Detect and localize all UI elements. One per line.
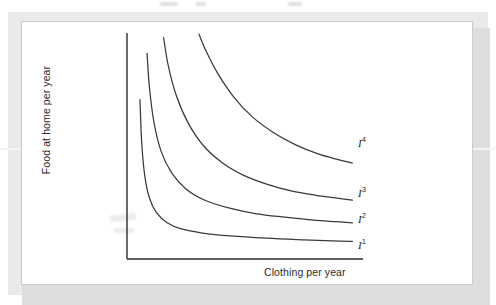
curve-i3 — [164, 38, 353, 201]
curve-label-i2-sup: 2 — [362, 211, 366, 220]
curve-label-i3: I3 — [358, 187, 366, 199]
figure-card: Food at home per year Clothing per year … — [21, 21, 473, 285]
curve-i4 — [199, 34, 352, 163]
curve-label-i2: I2 — [358, 213, 366, 225]
curve-label-i1: I1 — [358, 239, 366, 251]
y-axis-title: Food at home per year — [40, 50, 52, 190]
indifference-curve-chart: Food at home per year Clothing per year … — [22, 22, 474, 286]
curve-label-i1-sup: 1 — [362, 237, 366, 246]
x-axis-title: Clothing per year — [264, 266, 346, 278]
curve-i2 — [147, 53, 352, 223]
curve-label-i4-sup: 4 — [362, 135, 366, 144]
curve-label-i3-sup: 3 — [362, 185, 366, 194]
chart-canvas — [22, 22, 474, 286]
curve-label-i4: I4 — [358, 137, 366, 149]
